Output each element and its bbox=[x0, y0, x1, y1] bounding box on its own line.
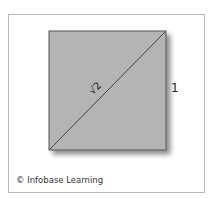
copyright-credit: © Infobase Learning bbox=[16, 175, 103, 185]
side-length-label: 1 bbox=[171, 81, 179, 95]
square-diagram: √2 1 bbox=[0, 0, 216, 198]
